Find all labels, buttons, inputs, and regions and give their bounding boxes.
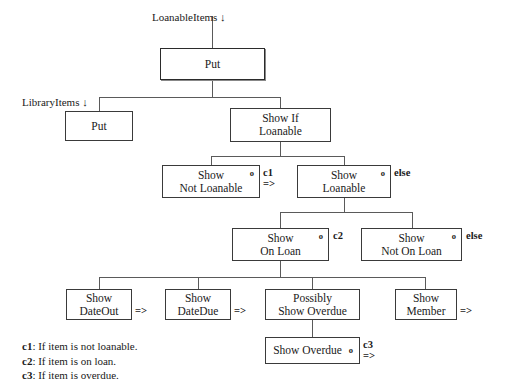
edge-showifloanable-down	[280, 142, 281, 156]
node-show-not-on-loan-line2: Not On Loan	[381, 245, 442, 258]
node-show-loanable[interactable]: o Show Loanable	[297, 165, 391, 198]
edge-to-show-not-on-loan	[412, 212, 413, 228]
node-show-loanable-line2: Loanable	[323, 182, 366, 195]
edge-label-c2-text: c2	[333, 230, 343, 241]
node-possibly-show-overdue[interactable]: Possibly Show Overdue	[265, 289, 360, 320]
legend-item-c2-text: : If item is on loan.	[32, 355, 116, 367]
node-show-on-loan-o-mark: o	[319, 232, 323, 241]
legend-item-c3: c3: If item is overdue.	[22, 368, 137, 383]
legend-item-c1-key: c1	[22, 340, 32, 352]
legend-item-c3-key: c3	[22, 369, 32, 381]
node-show-on-loan-line1: Show	[267, 232, 293, 245]
node-show-not-loanable-line2: Not Loanable	[180, 182, 243, 195]
node-show-dateout-line1: Show	[86, 292, 112, 305]
node-put-library-label: Put	[91, 120, 106, 133]
edge-showifloanable-split-bar	[211, 156, 344, 157]
edge-label-c2: c2	[333, 230, 343, 241]
node-show-if-loanable-line1: Show If	[262, 112, 299, 125]
flow-label-library-items: LibraryItems ↓	[22, 96, 88, 108]
node-show-dateout[interactable]: Show DateOut	[66, 289, 132, 320]
node-show-if-loanable-line2: Loanable	[259, 125, 302, 138]
node-show-member-line1: Show	[413, 292, 439, 305]
edge-label-c3-arrow: =>	[363, 350, 375, 361]
node-show-not-loanable-line1: Show	[198, 169, 224, 182]
node-show-datedue-line1: Show	[185, 292, 211, 305]
node-show-not-on-loan[interactable]: o Show Not On Loan	[361, 228, 462, 261]
node-possibly-show-overdue-line2: Show Overdue	[278, 305, 347, 318]
edge-possibly-to-show-overdue	[312, 320, 313, 337]
edge-label-else-2: else	[466, 230, 482, 241]
edge-to-show-member	[425, 277, 426, 289]
edge-label-dateout-arrow: =>	[135, 305, 147, 316]
edge-label-member-arrow: =>	[460, 305, 472, 316]
node-show-not-loanable[interactable]: o Show Not Loanable	[162, 165, 260, 198]
edge-to-show-on-loan	[280, 212, 281, 228]
edge-to-possibly-show-overdue	[312, 277, 313, 289]
edge-label-c3: c3 =>	[363, 339, 375, 361]
edge-label-else-1-text: else	[394, 167, 410, 178]
node-put-top-label: Put	[205, 58, 220, 71]
legend-item-c3-text: : If item is overdue.	[32, 369, 118, 381]
node-show-datedue-line2: DateDue	[178, 305, 219, 318]
node-show-on-loan[interactable]: o Show On Loan	[232, 228, 329, 261]
edge-showonloan-down	[280, 261, 281, 277]
node-show-on-loan-line2: On Loan	[260, 245, 301, 258]
node-show-overdue[interactable]: o Show Overdue	[265, 337, 360, 364]
edge-to-show-dateout	[99, 277, 100, 289]
node-put-top[interactable]: Put	[160, 48, 265, 80]
edge-label-datedue-arrow: =>	[234, 305, 246, 316]
flow-label-loanable-items: LoanableItems ↓	[152, 11, 226, 23]
node-show-overdue-o-mark: o	[349, 345, 353, 354]
edge-to-show-loanable	[344, 156, 345, 165]
edge-to-show-datedue	[198, 277, 199, 289]
legend-item-c2: c2: If item is on loan.	[22, 354, 137, 369]
node-possibly-show-overdue-line1: Possibly	[293, 292, 332, 305]
edge-showloanable-split-bar	[280, 212, 412, 213]
legend: c1: If item is not loanable. c2: If item…	[22, 339, 137, 383]
edge-to-show-if-loanable	[280, 97, 281, 108]
node-show-member-line2: Member	[407, 305, 446, 318]
node-show-member[interactable]: Show Member	[395, 289, 457, 320]
edge-to-show-not-loanable	[211, 156, 212, 165]
legend-item-c2-key: c2	[22, 355, 32, 367]
edge-label-c1: c1 =>	[263, 167, 275, 189]
edge-label-else-2-text: else	[466, 230, 482, 241]
node-show-overdue-label: Show Overdue	[273, 344, 342, 357]
legend-item-c1: c1: If item is not loanable.	[22, 339, 137, 354]
legend-item-c1-text: : If item is not loanable.	[32, 340, 137, 352]
decision-tree-diagram: LoanableItems ↓ LibraryItems ↓ Put Put S…	[0, 0, 505, 392]
node-show-loanable-o-mark: o	[381, 169, 385, 178]
node-show-if-loanable[interactable]: Show If Loanable	[230, 108, 331, 142]
node-show-not-loanable-o-mark: o	[250, 169, 254, 178]
edge-label-c3-text: c3	[363, 339, 373, 350]
edge-showloanable-down	[344, 198, 345, 212]
node-show-dateout-line2: DateOut	[80, 305, 119, 318]
node-put-library[interactable]: Put	[65, 111, 133, 141]
edge-put-split-bar	[99, 97, 280, 98]
node-show-loanable-line1: Show	[331, 169, 357, 182]
edge-showonloan-split-bar	[99, 277, 425, 278]
edge-label-c1-text: c1	[263, 167, 273, 178]
edge-label-c1-arrow: =>	[263, 178, 275, 189]
node-show-not-on-loan-o-mark: o	[452, 232, 456, 241]
edge-label-else-1: else	[394, 167, 410, 178]
node-show-not-on-loan-line1: Show	[398, 232, 424, 245]
node-show-datedue[interactable]: Show DateDue	[165, 289, 231, 320]
edge-put-down	[212, 80, 213, 97]
edge-to-library-put	[99, 97, 100, 111]
